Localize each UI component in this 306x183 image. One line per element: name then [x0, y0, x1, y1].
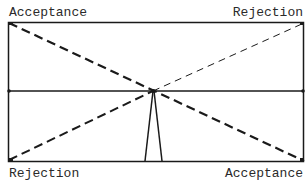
triangle-left-leg: [145, 91, 153, 161]
diagonal-rejection-heavy-segment: [9, 91, 153, 160]
center-point: [152, 89, 156, 93]
diagonal-rejection-thin-segment: [153, 23, 304, 91]
corner-marker-top-left: [8, 22, 13, 25]
diagonal-acceptance-heavy: [9, 23, 304, 161]
diagram-graphic: [0, 0, 306, 183]
midline-marker-left: [7, 89, 11, 93]
corner-marker-bottom-right: [300, 158, 304, 162]
triangle-right-leg: [154, 91, 162, 161]
corner-marker-bottom-left: [8, 158, 13, 162]
midline-marker-right: [301, 89, 305, 93]
corner-marker-top-right: [300, 22, 304, 25]
